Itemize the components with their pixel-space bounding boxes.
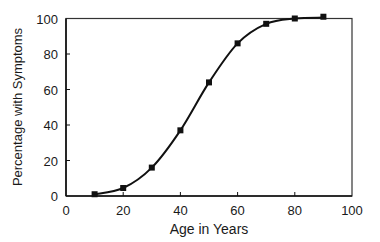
y-tick-label: 100	[36, 12, 58, 27]
data-point	[92, 191, 98, 197]
data-point	[235, 40, 241, 46]
x-tick-label: 100	[341, 203, 363, 218]
data-point	[292, 16, 298, 22]
y-tick-label: 20	[44, 154, 58, 169]
y-tick-label: 40	[44, 118, 58, 133]
y-tick-label: 0	[51, 189, 58, 204]
x-tick-label: 20	[116, 203, 130, 218]
y-axis-label: Percentage with Symptoms	[10, 27, 25, 186]
x-tick-label: 60	[230, 203, 244, 218]
x-tick-label: 40	[173, 203, 187, 218]
x-tick-label: 0	[62, 203, 69, 218]
y-tick-label: 80	[44, 47, 58, 62]
plot-frame	[66, 19, 352, 197]
fit-curve-group	[95, 18, 324, 195]
data-point	[120, 185, 126, 191]
data-points	[92, 14, 327, 198]
x-axis-label: Age in Years	[170, 221, 249, 237]
data-point	[206, 79, 212, 85]
data-point	[263, 21, 269, 27]
plot-border	[66, 19, 352, 197]
data-point	[320, 14, 326, 20]
x-tick-label: 80	[288, 203, 302, 218]
y-axis-ticks: 020406080100	[36, 12, 70, 205]
y-tick-label: 60	[44, 83, 58, 98]
fit-curve	[95, 18, 324, 195]
data-point	[177, 127, 183, 133]
data-point	[149, 165, 155, 171]
chart: 020406080100 020406080100 Age in Years P…	[0, 0, 380, 242]
